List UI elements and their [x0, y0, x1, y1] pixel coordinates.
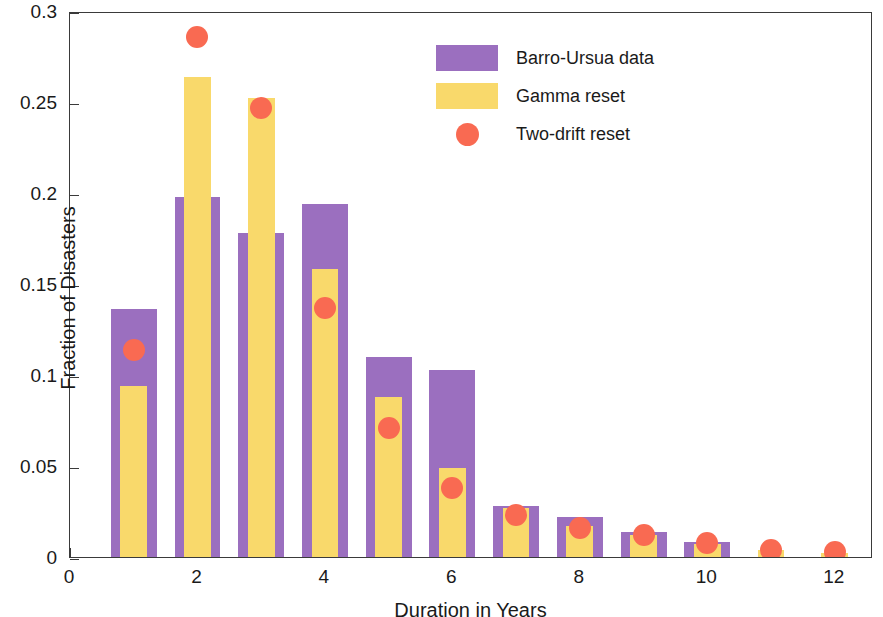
legend-item-2: Two-drift reset [436, 115, 654, 153]
scatter-point-10 [696, 532, 718, 554]
y-axis-title: Fraction of Disasters [57, 206, 80, 389]
scatter-point-7 [505, 504, 527, 526]
legend-swatch-rect-icon [436, 83, 498, 109]
y-tick-label-4: 0.2 [0, 183, 57, 205]
y-tick-0 [70, 559, 79, 560]
y-tick-1 [70, 468, 79, 469]
x-tick-label-5: 10 [696, 566, 717, 588]
legend-label: Barro-Ursua data [516, 48, 654, 69]
bar-gamma-reset-1 [120, 386, 147, 557]
scatter-point-12 [824, 541, 846, 557]
chart-figure: Fraction of Disasters Duration in Years … [0, 0, 883, 617]
legend-item-1: Gamma reset [436, 77, 654, 115]
x-tick-0 [70, 548, 71, 557]
y-tick-5 [70, 104, 79, 105]
scatter-point-11 [760, 539, 782, 557]
y-tick-label-3: 0.15 [0, 274, 57, 296]
chart-legend: Barro-Ursua dataGamma resetTwo-drift res… [436, 39, 654, 153]
legend-swatch-circle-icon [436, 121, 498, 147]
bar-gamma-reset-3 [248, 98, 275, 557]
x-tick-label-1: 2 [191, 566, 202, 588]
scatter-point-8 [569, 517, 591, 539]
scatter-point-3 [250, 97, 272, 119]
scatter-point-5 [378, 417, 400, 439]
y-tick-label-0: 0 [0, 547, 57, 569]
scatter-point-2 [186, 26, 208, 48]
scatter-point-6 [441, 477, 463, 499]
x-tick-label-4: 8 [574, 566, 585, 588]
x-tick-label-0: 0 [64, 566, 75, 588]
legend-item-0: Barro-Ursua data [436, 39, 654, 77]
x-tick-label-3: 6 [446, 566, 457, 588]
y-tick-label-2: 0.1 [0, 365, 57, 387]
scatter-point-1 [123, 339, 145, 361]
scatter-point-4 [314, 297, 336, 319]
x-axis-title: Duration in Years [70, 599, 871, 617]
legend-swatch-rect-icon [436, 45, 498, 71]
scatter-point-9 [633, 524, 655, 546]
plot-area: Fraction of Disasters Duration in Years … [69, 12, 872, 558]
y-tick-label-5: 0.25 [0, 92, 57, 114]
x-tick-label-2: 4 [319, 566, 330, 588]
y-tick-4 [70, 195, 79, 196]
y-tick-label-6: 0.3 [0, 1, 57, 23]
legend-dot-icon [456, 123, 479, 146]
legend-label: Two-drift reset [516, 124, 630, 145]
y-tick-label-1: 0.05 [0, 456, 57, 478]
bar-gamma-reset-2 [184, 77, 211, 557]
x-tick-label-6: 12 [823, 566, 844, 588]
legend-label: Gamma reset [516, 86, 625, 107]
y-tick-6 [70, 13, 79, 14]
